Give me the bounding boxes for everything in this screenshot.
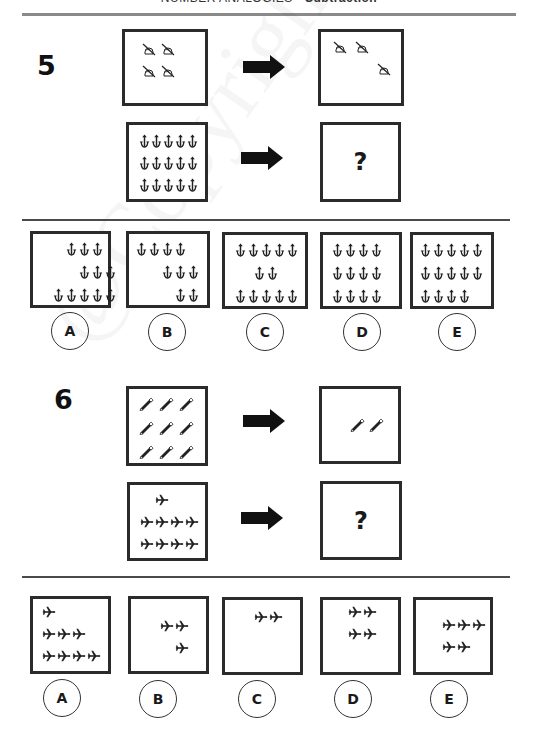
- airplane-icon: [363, 626, 377, 642]
- header-title-prefix: NUMBER ANALOGIES -: [161, 0, 305, 5]
- airplane-icon: [363, 604, 377, 620]
- up-down-anchor-icon: [446, 265, 457, 281]
- up-down-anchor-icon: [248, 288, 259, 304]
- airplane-icon: [155, 492, 169, 508]
- q6-answer-box: ?: [320, 481, 402, 560]
- airplane-icon: [170, 536, 184, 552]
- up-down-anchor-icon: [151, 133, 162, 149]
- up-down-anchor-icon: [433, 242, 444, 258]
- up-down-anchor-icon: [187, 177, 198, 193]
- up-down-anchor-icon: [371, 242, 382, 258]
- up-down-anchor-icon: [151, 155, 162, 171]
- pencil-icon: [158, 419, 174, 435]
- up-down-anchor-icon: [175, 264, 186, 280]
- up-down-anchor-icon: [248, 242, 259, 258]
- q6-option-b-box[interactable]: [128, 596, 209, 674]
- section-separator: [22, 576, 510, 578]
- q5-option-c-label[interactable]: C: [246, 313, 284, 351]
- airplane-icon: [155, 514, 169, 530]
- airplane-icon: [140, 536, 154, 552]
- q5-option-e-label[interactable]: E: [438, 313, 476, 351]
- up-down-anchor-icon: [187, 155, 198, 171]
- page-header-title: NUMBER ANALOGIES - Subtraction: [0, 0, 538, 5]
- q5-option-e-box[interactable]: [410, 232, 494, 309]
- q6-option-a-label[interactable]: A: [43, 679, 81, 717]
- q6-option-e-label[interactable]: E: [430, 680, 468, 718]
- q5-option-b-label[interactable]: B: [148, 313, 186, 351]
- pencil-icon: [178, 395, 194, 411]
- up-down-anchor-icon: [274, 288, 285, 304]
- up-down-anchor-icon: [261, 288, 272, 304]
- header-rule: [22, 13, 516, 16]
- up-down-anchor-icon: [254, 265, 265, 281]
- up-down-anchor-icon: [287, 242, 298, 258]
- pencil-icon: [138, 443, 154, 459]
- airplane-icon: [269, 609, 283, 625]
- airplane-icon: [472, 617, 486, 633]
- q6-example-left-box: [126, 386, 208, 466]
- q6-option-b-label[interactable]: B: [139, 680, 177, 718]
- up-down-anchor-icon: [287, 288, 298, 304]
- up-down-anchor-icon: [187, 133, 198, 149]
- pencil-icon: [138, 395, 154, 411]
- up-down-anchor-icon: [267, 265, 278, 281]
- q5-option-a-box[interactable]: [30, 231, 111, 308]
- up-down-anchor-icon: [105, 287, 116, 303]
- airplane-icon: [42, 604, 56, 620]
- up-down-anchor-icon: [92, 287, 103, 303]
- up-down-anchor-icon: [261, 242, 272, 258]
- up-down-anchor-icon: [175, 177, 186, 193]
- up-down-anchor-icon: [79, 264, 90, 280]
- up-down-anchor-icon: [136, 241, 147, 257]
- up-down-anchor-icon: [92, 264, 103, 280]
- up-down-anchor-icon: [92, 241, 103, 257]
- pencil-icon: [368, 416, 384, 432]
- up-down-anchor-icon: [162, 241, 173, 257]
- q5-option-b-box[interactable]: [126, 231, 210, 308]
- up-down-anchor-icon: [274, 242, 285, 258]
- up-down-anchor-icon: [188, 287, 199, 303]
- up-down-anchor-icon: [358, 242, 369, 258]
- airplane-icon: [175, 618, 189, 634]
- airplane-icon: [57, 626, 71, 642]
- up-down-anchor-icon: [175, 155, 186, 171]
- q6-option-e-box[interactable]: [413, 597, 493, 675]
- up-down-anchor-icon: [433, 265, 444, 281]
- up-down-anchor-icon: [175, 287, 186, 303]
- q6-option-c-label[interactable]: C: [238, 680, 276, 718]
- q5-option-d-box[interactable]: [320, 232, 402, 309]
- q6-option-c-box[interactable]: [222, 597, 303, 675]
- q6-option-d-label[interactable]: D: [334, 680, 372, 718]
- q5-example-right-box: [318, 29, 404, 106]
- airplane-icon: [87, 648, 101, 664]
- up-down-anchor-icon: [446, 242, 457, 258]
- pencil-icon: [178, 443, 194, 459]
- airplane-icon: [348, 626, 362, 642]
- up-down-anchor-icon: [66, 241, 77, 257]
- q5-option-d-label[interactable]: D: [343, 313, 381, 351]
- question-mark: ?: [323, 148, 398, 176]
- up-down-anchor-icon: [420, 265, 431, 281]
- up-down-anchor-icon: [79, 287, 90, 303]
- up-down-anchor-icon: [163, 155, 174, 171]
- q5-answer-box: ?: [320, 122, 401, 202]
- airplane-icon: [42, 626, 56, 642]
- up-down-anchor-icon: [358, 265, 369, 281]
- q5-example-left-box: [122, 29, 208, 106]
- writing-hand-icon: [160, 64, 176, 80]
- question-mark: ?: [323, 507, 399, 535]
- airplane-icon: [155, 536, 169, 552]
- writing-hand-icon: [141, 42, 157, 58]
- q5-option-a-label[interactable]: A: [51, 312, 89, 350]
- q5-option-c-box[interactable]: [222, 232, 308, 309]
- up-down-anchor-icon: [139, 155, 150, 171]
- airplane-icon: [254, 609, 268, 625]
- airplane-icon: [170, 514, 184, 530]
- up-down-anchor-icon: [433, 288, 444, 304]
- q6-option-a-box[interactable]: [30, 596, 111, 674]
- up-down-anchor-icon: [345, 242, 356, 258]
- q6-option-d-box[interactable]: [320, 597, 401, 675]
- up-down-anchor-icon: [446, 288, 457, 304]
- up-down-anchor-icon: [459, 265, 470, 281]
- airplane-icon: [42, 648, 56, 664]
